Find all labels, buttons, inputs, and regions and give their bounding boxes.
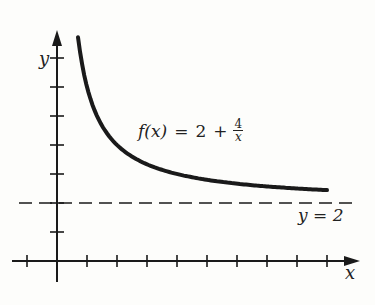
function-name: f(x): [138, 121, 167, 141]
function-label: f(x) = 2 + 4 x: [138, 118, 243, 143]
y-axis-arrow-icon: [52, 30, 62, 46]
asymptote-label: y = 2: [298, 205, 343, 225]
fraction-denominator: x: [235, 131, 242, 143]
fraction: 4 x: [233, 118, 243, 143]
constant-term: 2: [195, 121, 206, 141]
plus-sign: +: [213, 121, 227, 141]
function-curve: [78, 37, 327, 190]
y-axis-label: y: [39, 48, 49, 69]
axes: [12, 45, 345, 282]
x-axis-label: x: [345, 262, 355, 283]
equals-sign: =: [174, 121, 188, 141]
chart-canvas: [0, 0, 375, 305]
